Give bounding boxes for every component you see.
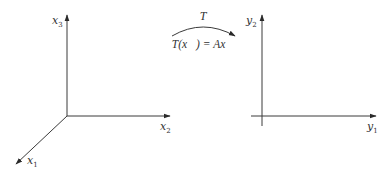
mapping-arrow [172,27,235,36]
transformation-mapping: T T(x⃗) = Ax⃗ [172,9,235,51]
linear-transformation-diagram: x3 x2 x1 T T(x⃗) = Ax⃗ y2 y1 [0,0,390,176]
mapping-formula: T(x⃗) = Ax⃗ [172,38,234,51]
y2-label: y2 [245,14,257,29]
x2-label: x2 [160,120,171,135]
domain-axes-3d: x3 x2 x1 [16,14,171,169]
mapping-name: T [200,9,208,23]
x1-axis [16,116,67,164]
y1-label: y1 [366,120,378,135]
x1-label: x1 [27,154,38,169]
codomain-axes-2d: y2 y1 [245,14,378,135]
x3-label: x3 [52,14,63,29]
